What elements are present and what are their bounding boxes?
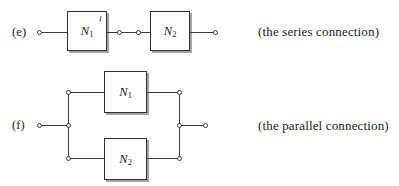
- parallel-left-node-mid: [66, 123, 71, 128]
- series-wire-mid-3: [141, 32, 150, 33]
- parallel-wire-top-right: [147, 92, 179, 93]
- parallel-wire-input: [42, 125, 68, 126]
- parallel-caption: (the parallel connection): [258, 118, 389, 134]
- parallel-output-terminal-right: [203, 123, 208, 128]
- part-label-f: (f): [12, 118, 25, 133]
- two-port-network-figure: (e) N1 N2 (the series connection): [0, 0, 399, 186]
- series-block-n1-label: N1: [68, 24, 106, 39]
- series-wire-mid-2: [122, 32, 137, 33]
- parallel-block-n1-label: N1: [105, 85, 146, 100]
- parallel-right-node-bottom: [177, 156, 182, 161]
- parallel-right-node-top: [177, 90, 182, 95]
- series-block-n2-label: N2: [151, 24, 189, 39]
- series-caption: (the series connection): [258, 24, 379, 40]
- series-block-n1-tick-mark: [99, 16, 101, 22]
- parallel-wire-bottom-right: [147, 158, 179, 159]
- parallel-block-n2-label: N2: [105, 152, 146, 167]
- parallel-wire-top-left: [70, 92, 104, 93]
- series-wire-output: [190, 32, 214, 33]
- series-block-n1: N1: [67, 11, 107, 51]
- parallel-block-n2: N2: [104, 138, 147, 180]
- series-wire-input: [42, 32, 67, 33]
- parallel-wire-output: [181, 125, 204, 126]
- parallel-wire-bottom-left: [70, 158, 104, 159]
- parallel-block-n1: N1: [104, 71, 147, 113]
- series-output-terminal-right: [213, 30, 218, 35]
- series-block-n2: N2: [150, 11, 190, 51]
- part-label-e: (e): [12, 25, 26, 40]
